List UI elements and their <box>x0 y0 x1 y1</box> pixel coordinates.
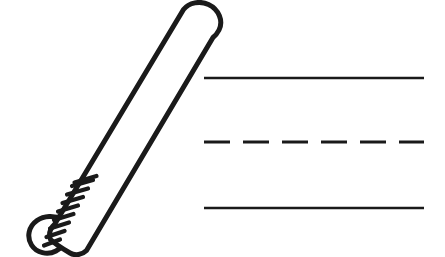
worksheet-artwork <box>0 0 445 257</box>
worksheet-canvas: Baseball Bat Tracing Worksheet <box>0 0 445 257</box>
tracing-area[interactable] <box>204 78 424 208</box>
